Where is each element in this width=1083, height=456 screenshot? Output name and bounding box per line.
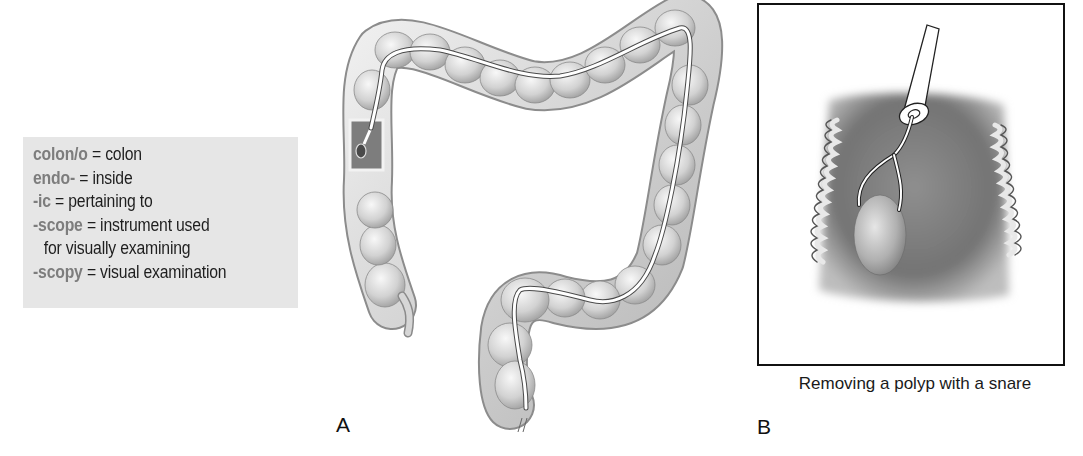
term-row: -scopy = visual examination: [33, 261, 264, 285]
term-root: colon/o: [33, 144, 88, 164]
term-row-continuation: for visually examining: [33, 237, 264, 261]
term-definition: = colon: [88, 144, 142, 164]
polyp-snare-panel: [757, 3, 1065, 366]
cutaway-window: [350, 120, 383, 170]
haustra: [354, 10, 708, 409]
term-row: endo- = inside: [33, 167, 264, 191]
figure-a-label: A: [336, 413, 350, 437]
polyp-snare-illustration: [759, 5, 1063, 364]
term-definition: = visual examination: [83, 262, 227, 282]
word-parts-box: colon/o = colon endo- = inside -ic = per…: [23, 137, 298, 308]
colon-illustration: [330, 0, 730, 456]
figure-b-label: B: [757, 415, 771, 439]
figure-b-caption: Removing a polyp with a snare: [770, 374, 1060, 394]
term-definition: for visually examining: [44, 238, 191, 258]
term-definition: = pertaining to: [51, 191, 153, 211]
term-definition: = instrument used: [83, 215, 210, 235]
term-suffix: -scope: [33, 215, 83, 235]
term-suffix: -scopy: [33, 262, 83, 282]
term-row: -ic = pertaining to: [33, 190, 264, 214]
term-definition: = inside: [75, 168, 132, 188]
term-suffix: -ic: [33, 191, 51, 211]
term-row: colon/o = colon: [33, 143, 264, 167]
term-prefix: endo-: [33, 168, 75, 188]
term-row: -scope = instrument used: [33, 214, 264, 238]
